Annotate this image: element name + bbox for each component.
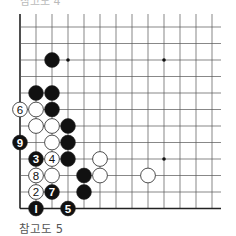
black-stone	[45, 102, 60, 117]
stone-disc	[77, 185, 92, 200]
move-number-label: 9	[17, 137, 23, 149]
stone-disc	[93, 168, 108, 183]
stone-disc	[29, 86, 44, 101]
stone-disc	[45, 53, 60, 68]
stone-disc	[141, 168, 156, 183]
move-number-label: I	[34, 203, 37, 215]
stone-disc	[61, 135, 76, 150]
white-stone	[93, 168, 108, 183]
white-stone-8: 8	[29, 168, 44, 183]
black-stone	[61, 152, 76, 167]
white-stone-6: 6	[13, 102, 28, 117]
stone-disc	[29, 119, 44, 134]
white-stone-2: 2	[29, 185, 44, 200]
stone-disc	[45, 102, 60, 117]
star-point	[66, 58, 70, 62]
white-stone	[45, 119, 60, 134]
black-stone	[61, 135, 76, 150]
move-number-label: 7	[49, 186, 55, 198]
star-point	[162, 157, 166, 161]
black-stone	[77, 168, 92, 183]
black-stone-1: I	[29, 201, 44, 216]
white-stone	[45, 168, 60, 183]
white-stone	[45, 135, 60, 150]
move-number-label: 6	[17, 104, 23, 116]
stone-disc	[61, 152, 76, 167]
stone-disc	[45, 86, 60, 101]
stone-disc	[45, 135, 60, 150]
black-stone	[45, 53, 60, 68]
stone-disc	[61, 119, 76, 134]
move-number-label: 5	[65, 203, 72, 215]
black-stone	[29, 86, 44, 101]
black-stone-5: 5	[61, 201, 76, 216]
move-number-label: 2	[33, 186, 39, 198]
move-number-label: 8	[33, 170, 39, 182]
move-number-label: 3	[33, 153, 39, 165]
white-stone	[29, 102, 44, 117]
black-stone	[45, 86, 60, 101]
black-stone-9: 9	[13, 135, 28, 150]
diagram-caption: 참고도 5	[19, 220, 63, 236]
stone-disc	[93, 152, 108, 167]
black-stone	[61, 119, 76, 134]
star-point	[162, 58, 166, 62]
black-stone	[77, 185, 92, 200]
go-board: 6934827I5	[0, 0, 236, 236]
white-stone	[93, 152, 108, 167]
white-stone	[141, 168, 156, 183]
black-stone-7: 7	[45, 185, 60, 200]
stone-disc	[45, 119, 60, 134]
black-stone-3: 3	[29, 152, 44, 167]
white-stone	[29, 119, 44, 134]
stone-disc	[77, 168, 92, 183]
move-number-label: 4	[49, 153, 56, 165]
stone-disc	[45, 168, 60, 183]
stone-disc	[29, 102, 44, 117]
white-stone-4: 4	[45, 152, 60, 167]
